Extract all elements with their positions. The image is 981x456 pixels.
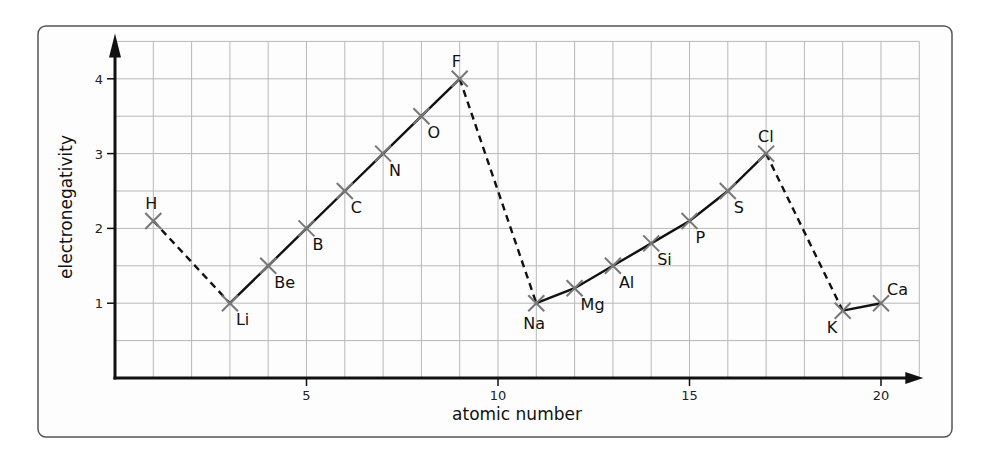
element-label-f: F [452,52,461,71]
y-tick-label: 1 [95,296,103,311]
y-tick-label: 2 [95,221,103,236]
element-label-k: K [827,318,838,337]
element-label-li: Li [236,310,249,329]
x-tick-label: 10 [490,388,507,403]
y-axis-label: electronegativity [56,135,76,279]
chart-frame [38,26,952,437]
electronegativity-chart: 51015201234 HLiBeBCNOFNaMgAlSiPSClKCa at… [0,0,981,456]
element-label-o: O [427,123,440,142]
y-tick-label: 3 [95,147,103,162]
element-label-c: C [351,198,362,217]
element-label-cl: Cl [758,127,774,146]
x-axis-label: atomic number [452,404,582,424]
y-tick-label: 4 [95,72,103,87]
x-tick-label: 15 [681,388,698,403]
x-tick-label: 5 [302,388,310,403]
element-label-n: N [389,161,401,180]
element-label-be: Be [274,273,295,292]
element-label-ca: Ca [887,280,908,299]
element-label-si: Si [657,250,672,269]
element-label-p: P [696,228,706,247]
element-label-mg: Mg [581,295,605,314]
element-label-s: S [734,198,744,217]
element-label-na: Na [523,314,545,333]
x-tick-label: 20 [873,388,890,403]
element-label-al: Al [619,273,634,292]
element-label-b: B [313,235,324,254]
element-label-h: H [145,194,157,213]
